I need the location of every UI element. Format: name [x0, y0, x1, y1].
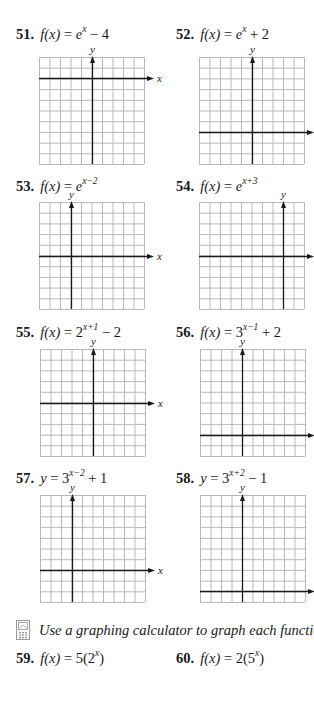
- x-axis-arrow-icon: [308, 589, 314, 594]
- graph-grid-54: xy: [199, 202, 304, 309]
- problem-number: 60.: [176, 650, 194, 666]
- exponent: x−2: [82, 176, 97, 186]
- x-axis-arrow-icon: [148, 568, 155, 573]
- exponent: x: [82, 24, 86, 34]
- expression-prefix: = 5(2: [60, 650, 95, 666]
- constant-term: − 4: [86, 26, 109, 42]
- problem-51-title: 51.f(x) = ex − 4: [16, 26, 109, 41]
- problem-53-title: 53.f(x) = ex−2: [16, 178, 98, 193]
- problem-54-title: 54.f(x) = ex+3: [176, 178, 258, 193]
- y-axis-label: y: [89, 43, 95, 55]
- constant-term: + 1: [85, 470, 108, 486]
- x-axis-arrow-icon: [147, 254, 154, 259]
- constant-term: + 2: [258, 324, 281, 340]
- problem-number: 52.: [176, 26, 194, 42]
- problem-number: 57.: [16, 470, 34, 486]
- x-axis-arrow-icon: [308, 433, 314, 438]
- function-name: f(x): [40, 650, 60, 666]
- problem-number: 53.: [16, 178, 34, 194]
- function-name: f(x): [200, 178, 220, 194]
- function-name: f(x): [40, 324, 60, 340]
- calculator-instruction: Use a graphing calculator to graph each …: [16, 620, 314, 640]
- constant-term: + 2: [246, 26, 269, 42]
- x-axis-label: x: [157, 397, 163, 409]
- graph-grid-55: xy: [40, 349, 145, 456]
- y-axis-label: y: [68, 188, 74, 200]
- constant-term: − 1: [245, 470, 268, 486]
- problem-number: 59.: [16, 650, 34, 666]
- y-axis-label: y: [249, 43, 255, 55]
- x-axis-label: x: [157, 564, 163, 576]
- problem-55-title: 55.f(x) = 2x+1 − 2: [16, 324, 121, 339]
- exponent: x: [255, 648, 259, 658]
- x-axis-arrow-icon: [307, 130, 314, 135]
- function-name: f(x): [200, 324, 220, 340]
- problem-number: 56.: [176, 324, 194, 340]
- function-name: y: [40, 470, 46, 486]
- problem-58-title: 58.y = 3x+2 − 1: [176, 470, 267, 485]
- x-axis-label: x: [156, 72, 162, 84]
- x-axis-arrow-icon: [307, 254, 314, 259]
- y-axis-label: y: [239, 481, 245, 493]
- y-axis-label: y: [69, 481, 75, 493]
- problem-number: 58.: [176, 470, 194, 486]
- problem-number: 54.: [176, 178, 194, 194]
- function-name: f(x): [40, 26, 60, 42]
- graph-grid-52: xy: [199, 57, 304, 164]
- graph-grid-51: xy: [39, 57, 144, 164]
- problem-number: 51.: [16, 26, 34, 42]
- problem-57-title: 57.y = 3x−2 + 1: [16, 470, 107, 485]
- exponent: x: [242, 24, 246, 34]
- x-axis-arrow-icon: [148, 401, 155, 406]
- graph-grid-53: xy: [39, 202, 144, 309]
- exponent: x−1: [243, 322, 258, 332]
- function-name: y: [200, 470, 206, 486]
- expression-suffix: ): [99, 650, 104, 666]
- graph-grid-57: xy: [40, 495, 145, 602]
- exponent: x+2: [229, 468, 244, 478]
- y-axis-label: y: [280, 188, 286, 200]
- exponent: x: [95, 648, 99, 658]
- problem-number: 55.: [16, 324, 34, 340]
- y-axis-label: y: [90, 335, 96, 347]
- problem-59-title: 59.f(x) = 5(2x): [16, 650, 104, 665]
- problem-56-title: 56.f(x) = 3x−1 + 2: [176, 324, 281, 339]
- constant-term: − 2: [98, 324, 121, 340]
- x-axis-label: x: [156, 250, 162, 262]
- graph-grid-58: xy: [200, 495, 305, 602]
- problem-60-title: 60.f(x) = 2(5x): [176, 650, 264, 665]
- instruction-text: Use a graphing calculator to graph each …: [39, 622, 314, 639]
- graph-grid-56: xy: [200, 349, 305, 456]
- graphing-calculator-icon: [16, 620, 30, 640]
- exponent: x−2: [69, 468, 84, 478]
- expression-prefix: = 2(5: [220, 650, 255, 666]
- x-axis-arrow-icon: [147, 76, 154, 81]
- base: 2: [76, 324, 83, 340]
- function-name: f(x): [40, 178, 60, 194]
- expression-suffix: ): [259, 650, 264, 666]
- function-name: f(x): [200, 650, 220, 666]
- exponent: x+1: [83, 322, 98, 332]
- exponent: x+3: [242, 176, 257, 186]
- function-name: f(x): [200, 26, 220, 42]
- y-axis-label: y: [239, 335, 245, 347]
- problem-52-title: 52.f(x) = ex + 2: [176, 26, 269, 41]
